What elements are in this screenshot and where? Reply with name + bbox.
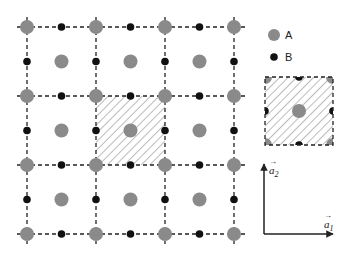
vector-a1-overarrow: → — [324, 211, 332, 220]
vector-a1-label: a1 — [324, 218, 334, 233]
legend-label-b: B — [285, 51, 292, 63]
basis-vectors: a2 → a1 → — [264, 157, 334, 234]
vector-a2-overarrow: → — [269, 157, 277, 166]
atoms-a — [20, 20, 241, 241]
legend-marker-b — [270, 53, 278, 61]
legend: A B — [268, 29, 293, 63]
vector-a2-label: a2 — [269, 164, 279, 179]
lattice-diagram: A B a2 → a1 → — [0, 0, 350, 256]
legend-label-a: A — [285, 29, 293, 41]
legend-marker-a — [268, 29, 280, 41]
unit-cell-inset — [258, 70, 340, 152]
